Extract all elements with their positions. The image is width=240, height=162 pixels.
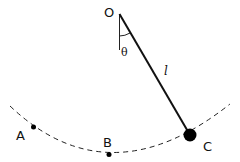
length-label: l — [164, 64, 168, 78]
point-a-dot — [31, 125, 36, 130]
angle-arc — [120, 33, 131, 36]
point-c-label: C — [203, 139, 212, 154]
point-b-dot — [107, 152, 112, 157]
pivot-label: O — [104, 5, 114, 20]
angle-label: θ — [121, 46, 128, 59]
pendulum-rod — [120, 14, 191, 135]
point-b-label: B — [103, 135, 112, 150]
pendulum-diagram: O θ l A B C — [0, 0, 240, 162]
point-a-label: A — [16, 128, 25, 143]
swing-path-arc — [10, 104, 230, 153]
pendulum-bob — [184, 129, 197, 142]
